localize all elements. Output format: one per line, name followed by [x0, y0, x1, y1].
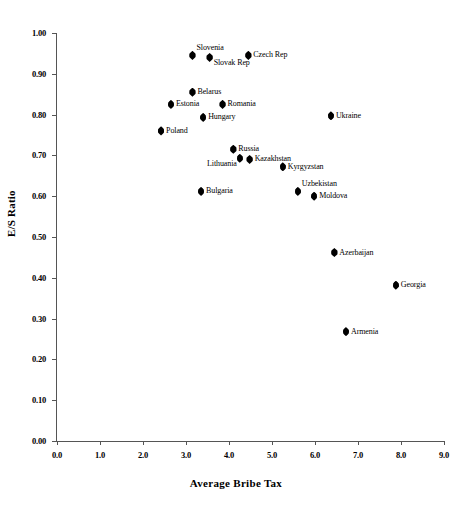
y-axis-tick-label: 0.40: [32, 273, 46, 283]
data-point-label: Georgia: [401, 281, 426, 289]
data-point-label: Slovenia: [196, 44, 223, 52]
data-point-marker: [200, 113, 206, 122]
x-axis-tick: 7.0: [358, 441, 359, 445]
x-axis-line: 0.01.02.03.04.05.06.07.08.09.0: [56, 441, 445, 442]
y-axis-tick: 0.90: [52, 74, 56, 75]
data-point-marker: [331, 248, 337, 257]
data-point-label: Czech Rep: [253, 51, 287, 59]
data-point-label: Uzbekistan: [302, 180, 337, 188]
x-axis-tick: 0.0: [57, 441, 58, 445]
y-axis-tick-label: 0.70: [32, 150, 46, 160]
data-point-marker: [393, 281, 399, 290]
data-point-marker: [206, 53, 212, 62]
data-point-label: Kyrgyzstan: [288, 163, 324, 171]
y-axis-tick-label: 0.60: [32, 191, 46, 201]
y-axis-title: E/S Ratio: [5, 190, 17, 237]
data-point-marker: [295, 187, 301, 196]
y-axis-tick: 0.20: [52, 359, 56, 360]
data-point-label: Poland: [166, 127, 188, 135]
data-point-marker: [343, 327, 349, 336]
y-axis-tick: 0.10: [52, 400, 56, 401]
data-point-label: Hungary: [208, 113, 235, 121]
x-axis-tick: 6.0: [315, 441, 316, 445]
y-axis-tick-label: 0.00: [32, 436, 46, 446]
data-point-label: Bulgaria: [206, 187, 233, 195]
x-axis-tick-label: 3.0: [181, 450, 191, 460]
data-point-marker: [328, 111, 334, 120]
y-axis-tick: 0.50: [52, 237, 56, 238]
x-axis-tick-label: 7.0: [353, 450, 363, 460]
data-point-marker: [246, 155, 252, 164]
x-axis-tick: 2.0: [143, 441, 144, 445]
data-point-label: Moldova: [319, 192, 347, 200]
data-point-marker: [280, 162, 286, 171]
x-axis-tick: 9.0: [444, 441, 445, 445]
x-axis-tick: 3.0: [186, 441, 187, 445]
data-point-label: Russia: [238, 145, 259, 153]
scatter-chart: 0.000.100.200.300.400.500.600.700.800.90…: [0, 0, 472, 518]
x-axis-tick: 8.0: [401, 441, 402, 445]
data-point-label: Estonia: [176, 100, 199, 108]
y-axis-tick: 1.00: [52, 33, 56, 34]
y-axis-tick: 0.40: [52, 278, 56, 279]
y-axis-tick-label: 0.80: [32, 110, 46, 120]
data-point-label: Slovak Rep: [214, 59, 250, 67]
data-point-marker: [158, 126, 164, 135]
data-point-marker: [230, 145, 236, 154]
data-point-label: Ukraine: [336, 112, 361, 120]
data-point-marker: [237, 154, 243, 163]
y-axis-tick: 0.60: [52, 196, 56, 197]
data-point-label: Kazakhstan: [255, 155, 291, 163]
y-axis-tick-label: 0.30: [32, 314, 46, 324]
x-axis-tick-label: 4.0: [224, 450, 234, 460]
plot-area: SloveniaSlovak RepCzech RepBelarusEstoni…: [57, 33, 444, 441]
y-axis-tick: 0.70: [52, 155, 56, 156]
data-point-label: Belarus: [197, 88, 221, 96]
data-point-marker: [198, 187, 204, 196]
data-point-label: Romania: [228, 100, 256, 108]
data-point-marker: [189, 88, 195, 97]
x-axis-tick-label: 9.0: [439, 450, 449, 460]
x-axis-tick: 5.0: [272, 441, 273, 445]
x-axis-tick-label: 8.0: [396, 450, 406, 460]
x-axis-tick-label: 5.0: [267, 450, 277, 460]
y-axis-tick-label: 0.10: [32, 395, 46, 405]
data-point-marker: [168, 100, 174, 109]
x-axis-tick-label: 1.0: [95, 450, 105, 460]
data-point-label: Armenia: [351, 328, 378, 336]
y-axis-tick: 0.30: [52, 319, 56, 320]
x-axis-title: Average Bribe Tax: [0, 477, 472, 489]
y-axis-tick: 0.80: [52, 115, 56, 116]
y-axis-tick-label: 0.20: [32, 354, 46, 364]
data-point-marker: [219, 100, 225, 109]
data-point-marker: [311, 192, 317, 201]
x-axis-tick-label: 6.0: [310, 450, 320, 460]
y-axis-tick-label: 0.50: [32, 232, 46, 242]
data-point-label: Lithuania: [207, 160, 237, 168]
y-axis-tick-label: 0.90: [32, 69, 46, 79]
data-point-marker: [189, 51, 195, 60]
data-point-label: Azerbaijan: [339, 249, 373, 257]
x-axis-tick: 4.0: [229, 441, 230, 445]
y-axis-tick-label: 1.00: [32, 28, 46, 38]
x-axis-tick-label: 2.0: [138, 450, 148, 460]
x-axis-tick-label: 0.0: [52, 450, 62, 460]
x-axis-tick: 1.0: [100, 441, 101, 445]
